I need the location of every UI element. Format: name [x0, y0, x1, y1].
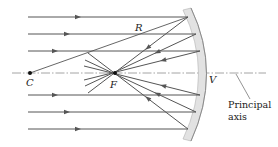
- label-radius: R: [134, 22, 143, 33]
- label-principal-axis-line2: axis: [228, 111, 247, 122]
- focal-point: [113, 71, 117, 75]
- center-of-curvature-point: [28, 71, 32, 75]
- radius-line: [30, 17, 188, 73]
- concave-mirror-diagram: C F V R Principal axis: [0, 0, 278, 147]
- concave-mirror: [183, 8, 207, 141]
- axis-label-leader: [236, 74, 250, 99]
- label-vertex: V: [209, 74, 218, 85]
- label-principal-axis-line1: Principal: [228, 99, 271, 110]
- label-focus: F: [109, 79, 118, 90]
- label-center: C: [26, 77, 34, 88]
